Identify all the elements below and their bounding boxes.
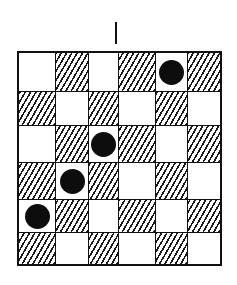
board-square-r4-c1 [56,200,89,233]
board-square-r2-c4 [156,126,188,163]
board-square-r0-c2 [89,53,119,92]
board-square-r5-c3 [119,233,156,264]
board-square-r0-c4 [156,53,188,92]
board-square-r2-c1 [56,126,89,163]
board-square-r2-c3 [119,126,156,163]
board-square-r1-c0 [19,92,56,126]
board-square-r5-c4 [156,233,188,264]
board-square-r0-c0 [19,53,56,92]
board-square-r5-c5 [188,233,220,264]
board-square-r3-c3 [119,163,156,200]
board-square-r3-c4 [156,163,188,200]
black-piece-icon [25,204,50,229]
board-square-r0-c1 [56,53,89,92]
board-square-r3-c1 [56,163,89,200]
board-square-r2-c2 [89,126,119,163]
board-square-r1-c2 [89,92,119,126]
board-square-r3-c2 [89,163,119,200]
board-square-r5-c1 [56,233,89,264]
board-square-r4-c0 [19,200,56,233]
black-piece-icon [159,60,184,85]
board-square-r4-c4 [156,200,188,233]
board-square-r1-c1 [56,92,89,126]
board-square-r2-c0 [19,126,56,163]
board-square-r5-c0 [19,233,56,264]
black-piece-icon [91,132,116,157]
board-square-r3-c5 [188,163,220,200]
checkerboard [17,51,222,266]
board-square-r1-c4 [156,92,188,126]
top-marker-bar [115,22,117,44]
board-square-r0-c5 [188,53,220,92]
board-square-r0-c3 [119,53,156,92]
board-square-r5-c2 [89,233,119,264]
board-square-r2-c5 [188,126,220,163]
board-square-r1-c3 [119,92,156,126]
black-piece-icon [60,169,85,194]
board-square-r4-c5 [188,200,220,233]
board-square-r4-c2 [89,200,119,233]
board-square-r3-c0 [19,163,56,200]
board-square-r1-c5 [188,92,220,126]
board-square-r4-c3 [119,200,156,233]
